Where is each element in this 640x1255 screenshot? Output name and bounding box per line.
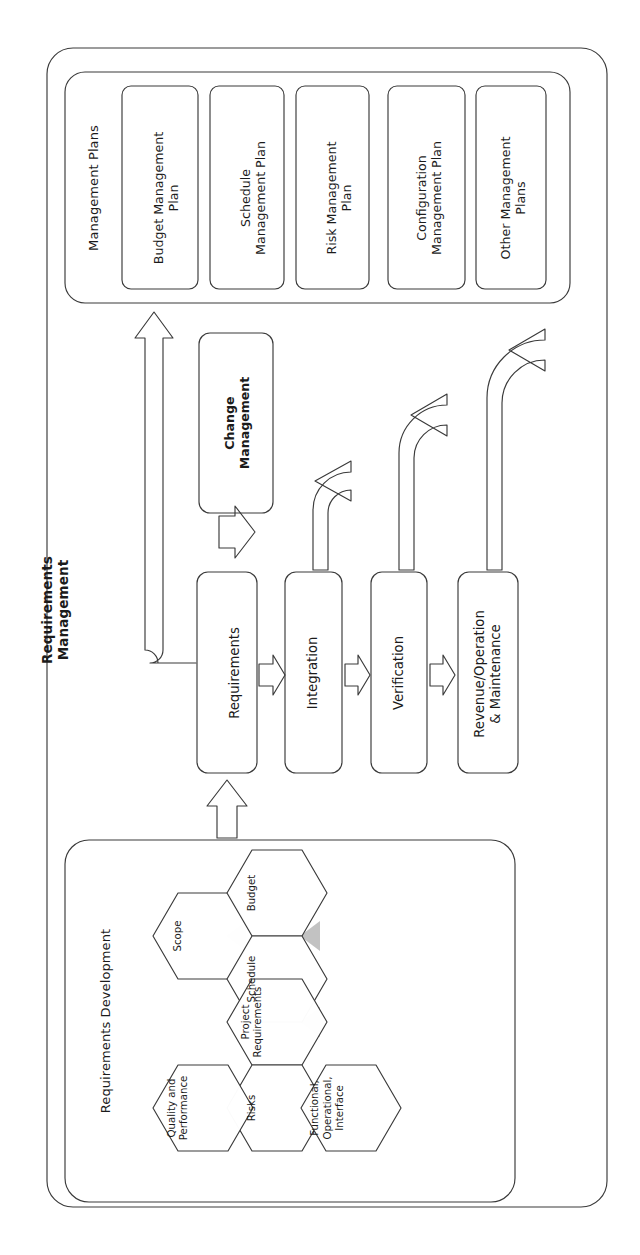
plan-box <box>296 86 369 289</box>
arrow-requirements-to-integration <box>259 655 285 695</box>
arrow-integration-to-verification <box>345 655 370 695</box>
arrow-change-management-to-requirements <box>219 506 255 558</box>
feedback-arrow-revenue-to-change <box>487 329 545 570</box>
outer-frame <box>47 48 607 1207</box>
arrow-development-to-requirements <box>207 780 247 838</box>
plan-box <box>388 86 465 289</box>
process-box-integration <box>285 572 342 773</box>
change-management-box <box>199 333 273 513</box>
feedback-arrow-integration-to-change <box>313 461 351 570</box>
arrow-requirements-to-management-plans <box>135 312 196 663</box>
arrow-verification-to-revenue <box>430 655 455 695</box>
management-plans-panel <box>65 72 570 303</box>
diagram-canvas: Requirements Management Management Plans… <box>0 0 640 1255</box>
plan-box <box>122 86 198 289</box>
diagram-vectors <box>0 0 640 1255</box>
feedback-arrow-verification-to-change <box>399 394 447 570</box>
plan-box <box>476 86 546 289</box>
process-box-verification <box>371 572 427 773</box>
hexagon-quality-performance <box>153 1065 253 1151</box>
process-box-requirements <box>197 572 257 773</box>
hex-shapes <box>153 850 401 1151</box>
plan-box <box>210 86 284 289</box>
hexagon-functional-operational-interface <box>301 1065 401 1151</box>
process-box-revenue-operation <box>458 572 518 773</box>
